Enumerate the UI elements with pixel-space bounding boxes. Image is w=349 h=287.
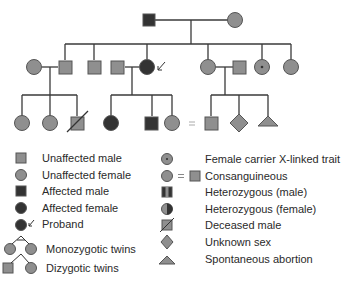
g3-unknown-sex-icon: [230, 114, 248, 132]
legend-label-unknown-sex: Unknown sex: [205, 236, 271, 248]
legend-consanguineous-female-icon: [162, 171, 173, 182]
legend-label-dizygotic-twins: Dizygotic twins: [46, 262, 119, 274]
g1-father-affected-male-icon: [143, 14, 155, 26]
legend-label-monozygotic-twins: Monozygotic twins: [46, 243, 136, 255]
g3-a1-icon: [15, 116, 30, 131]
legend-consanguineous-male-icon: [190, 171, 200, 181]
g2-proband-affected-female-icon: [140, 60, 155, 75]
carrier-dot-icon: [261, 66, 264, 69]
legend-mz-twin-2-icon: [26, 244, 37, 255]
legend-label-deceased-male: Deceased male: [205, 219, 281, 231]
consanguinity-mark-icon: [189, 122, 195, 125]
legend-label-affected-female: Affected female: [42, 202, 118, 214]
g2-son-1-icon: [59, 61, 72, 74]
g3-consanguineous-female-icon: [165, 116, 180, 131]
legend-mz-twin-1-icon: [5, 244, 16, 255]
g3-spontaneous-abortion-icon: [258, 116, 278, 126]
legend-unknown-sex-icon: [161, 235, 173, 249]
legend-label-heterozygous-female: Heterozygous (female): [205, 203, 316, 215]
legend-affected-female-icon: [16, 203, 27, 214]
legend-affected-male-icon: [16, 186, 26, 196]
legend-label-consanguineous: Consanguineous: [205, 170, 288, 182]
g2-spouse-male-icon: [111, 61, 124, 74]
g2-son-2-icon: [88, 61, 101, 74]
g1-mother-unaffected-female-icon: [228, 13, 243, 28]
legend-unaffected-female-icon: [16, 170, 27, 181]
g3-affected-female-icon: [104, 116, 119, 131]
legend-label-proband: Proband: [42, 218, 84, 230]
legend-spontaneous-abortion-icon: [159, 256, 175, 264]
g2-spouse-male-2-icon: [233, 61, 246, 74]
legend-label-female-carrier: Female carrier X-linked trait: [205, 153, 340, 165]
g2-spouse-female-icon: [27, 60, 42, 75]
legend-proband-icon: [16, 220, 27, 231]
proband-arrow-icon: [158, 62, 165, 70]
legend-dz-twin-female-icon: [26, 263, 37, 274]
legend-dz-twin-male-icon: [3, 263, 13, 273]
legend-label-unaffected-female: Unaffected female: [42, 169, 131, 181]
g3-affected-male-icon: [145, 117, 158, 130]
legend-label-unaffected-male: Unaffected male: [42, 152, 122, 164]
g3-deceased-male-icon: [71, 117, 84, 130]
g2-daughter-2-icon: [201, 60, 216, 75]
g3-a2-icon: [43, 116, 58, 131]
pedigree-chart: Unaffected male Unaffected female Affect…: [0, 0, 349, 287]
g2-daughter-4-icon: [284, 60, 299, 75]
g3-consanguineous-male-icon: [205, 117, 218, 130]
legend-label-heterozygous-male: Heterozygous (male): [205, 186, 307, 198]
legend-label-spontaneous-abortion: Spontaneous abortion: [205, 253, 313, 265]
legend-label-affected-male: Affected male: [42, 185, 109, 197]
legend-unaffected-male-icon: [16, 153, 26, 163]
